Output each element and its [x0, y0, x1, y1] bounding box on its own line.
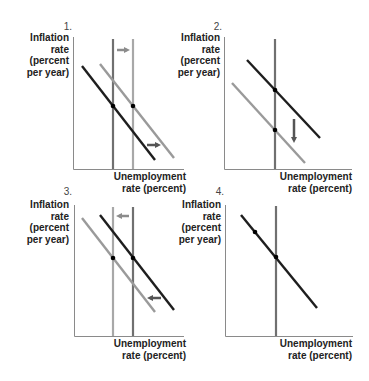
- axes: [226, 205, 354, 337]
- equilibrium-dot: [111, 256, 116, 261]
- panel-1-graph: [74, 37, 185, 170]
- panel-2-graph: [225, 37, 353, 170]
- equilibrium-dot: [131, 256, 136, 261]
- short-run-curve-original: [100, 215, 174, 310]
- short-run-curve: [241, 215, 317, 308]
- short-run-curve-original: [247, 60, 320, 138]
- panel-3-graph: [75, 205, 185, 337]
- equilibrium-dot: [273, 88, 278, 93]
- equilibrium-dot: [111, 104, 116, 109]
- short-run-curve-shifted: [100, 64, 174, 158]
- point-on-curve: [253, 230, 258, 235]
- equilibrium-dot: [273, 128, 278, 133]
- axes: [75, 205, 185, 337]
- panel-4-graph: [226, 205, 354, 337]
- equilibrium-dot: [274, 255, 279, 260]
- short-run-curve-shifted: [82, 218, 155, 312]
- equilibrium-dot: [131, 104, 136, 109]
- short-run-curve-original: [82, 66, 155, 160]
- phillips-curve-diagrams: [0, 0, 369, 381]
